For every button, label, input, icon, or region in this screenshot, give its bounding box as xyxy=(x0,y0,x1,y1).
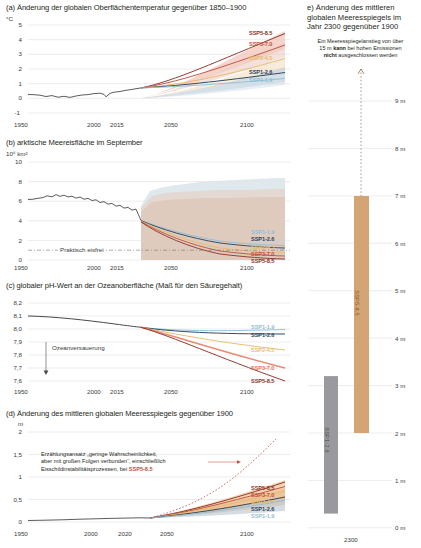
panel-a-ytick: 4 xyxy=(4,36,22,43)
panel-d-annotation-line3: Eisschildinstabilitätsprozessen, bei xyxy=(41,466,129,472)
panel-d-xtick: 1950 xyxy=(14,530,28,537)
panel-c-xtick: 2015 xyxy=(110,388,124,395)
panel-d-legend-ssp119: SSP1-1.9 xyxy=(251,513,274,519)
panel-a-legend-ssp245: SSP2-4.5 xyxy=(249,55,272,61)
panel-b-legend-ssp119: SSP1-1.9 xyxy=(251,229,274,235)
panel-d-legend-ssp245: SSP2-4.5 xyxy=(251,499,274,505)
panel-a-ytick: 1 xyxy=(4,80,22,87)
panel-e-ytick: 9 m xyxy=(395,97,405,104)
panel-e-plot xyxy=(300,0,421,548)
panel-d-legend-ssp585: SSP5-8.5 xyxy=(251,485,274,491)
panel-d-annotation-line1: Erzählungsansatz „geringe Wahrscheinlich… xyxy=(41,451,216,458)
panel-e: e) Änderung des mittleren globalen Meere… xyxy=(300,0,421,548)
panel-b-xtick: 2100 xyxy=(240,264,254,271)
panel-a-xtick: 2015 xyxy=(110,121,124,128)
panel-b-icefree-label: Praktisch eisfrei xyxy=(58,246,106,253)
panel-d-annotation-line3-wrap: Eisschildinstabilitätsprozessen, bei SSP… xyxy=(41,466,216,473)
panel-d-annotation: Erzählungsansatz „geringe Wahrscheinlich… xyxy=(41,451,216,473)
panel-a-legend-ssp585: SSP5-8.5 xyxy=(249,30,272,36)
panel-e-ytick: 2 m xyxy=(395,430,405,437)
panel-d-legend-ssp370: SSP3-7.0 xyxy=(251,492,274,498)
panel-a-xtick: 2050 xyxy=(164,121,178,128)
panel-a-xtick: 1950 xyxy=(14,121,28,128)
panel-a-legend-ssp126: SSP1-2.6 xyxy=(249,69,272,75)
panel-c-plot xyxy=(0,278,300,406)
panel-d-ytick: 1 xyxy=(2,473,22,480)
panel-c-ytick: 7,7 xyxy=(0,364,22,371)
panel-e-ytick: 8 m xyxy=(395,145,405,152)
panel-b-xtick: 1950 xyxy=(14,264,28,271)
panel-d-legend-ssp126: SSP1-2.6 xyxy=(251,506,274,512)
panel-b-legend-ssp245: SSP2-4.5 xyxy=(251,244,274,250)
panel-a: (a) Änderung der globalen Oberflächentem… xyxy=(0,0,300,134)
panel-b-legend-ssp126: SSP1-2.6 xyxy=(251,236,274,242)
panel-b-ytick: 4 xyxy=(2,217,22,224)
panel-c-ytick: 8,2 xyxy=(0,299,22,306)
panel-d-xtick: 2000 xyxy=(84,530,98,537)
panel-e-ytick: 1 m xyxy=(395,477,405,484)
panel-c-legend-ssp370: SSP3-7.0 xyxy=(251,365,274,371)
panel-c-xtick: 2050 xyxy=(164,388,178,395)
panel-e-bar-label-ssp126: SSP1-2.6 xyxy=(324,427,330,453)
panel-c-ytick: 8,1 xyxy=(0,312,22,319)
panel-d-ytick: 1,5 xyxy=(2,451,22,458)
panel-b-ytick: 8 xyxy=(2,178,22,185)
panel-c-legend-ssp245: SSP2-4.5 xyxy=(251,347,274,353)
panel-b-ytick: 6 xyxy=(2,197,22,204)
panel-c-ytick: 7,8 xyxy=(0,351,22,358)
panel-e-ytick: 4 m xyxy=(395,335,405,342)
panel-d-xtick: 2020 xyxy=(118,530,132,537)
panel-c: (c) globaler pH-Wert an der Ozeanoberflä… xyxy=(0,278,300,406)
panel-b-ytick: 10 xyxy=(2,158,22,165)
panel-a-plot xyxy=(0,0,300,134)
panel-e-ytick: 3 m xyxy=(395,382,405,389)
panel-c-ytick: 7,6 xyxy=(0,377,22,384)
panel-b-xtick: 2000 xyxy=(87,264,101,271)
panel-d-ytick: 2 xyxy=(2,428,22,435)
panel-e-ytick: 7 m xyxy=(395,192,405,199)
panel-c-annotation: Ozeanversauerung xyxy=(52,344,105,351)
panel-d-plot xyxy=(0,406,300,548)
panel-c-legend-ssp585: SSP5-8.5 xyxy=(251,378,274,384)
panel-a-xtick: 2100 xyxy=(240,121,254,128)
panel-c-xtick: 1950 xyxy=(14,388,28,395)
panel-d-annotation-line2: aber mit großen Folgen verbunden“, einsc… xyxy=(41,458,216,465)
panel-b-xtick: 2050 xyxy=(164,264,178,271)
panel-c-xtick: 2000 xyxy=(87,388,101,395)
panel-b-legend-ssp370: SSP3-7.0 xyxy=(251,251,274,257)
panel-c-legend-ssp126: SSP1-2.6 xyxy=(251,332,274,338)
panel-d: (d) Änderung des mittleren globalen Meer… xyxy=(0,406,300,548)
panel-a-legend-ssp119: SSP1-1.9 xyxy=(249,77,272,83)
panel-e-ytick: 6 m xyxy=(395,240,405,247)
panel-b-ytick: 0 xyxy=(2,256,22,263)
panel-a-legend-ssp370: SSP3-7.0 xyxy=(249,41,272,47)
panel-e-xtick: 2300 xyxy=(344,536,358,543)
panel-b-xtick: 2015 xyxy=(110,264,124,271)
panel-b: (b) arktische Meereisfläche im September… xyxy=(0,136,300,276)
panel-e-ytick: 5 m xyxy=(395,287,405,294)
panel-d-annotation-highlight: SSP5-8.5 xyxy=(129,466,153,472)
panel-d-xtick: 2100 xyxy=(240,530,254,537)
panel-e-ytick: 0 m xyxy=(395,524,405,531)
panel-d-ytick: 0 xyxy=(2,518,22,525)
panel-a-ytick: -1 xyxy=(2,109,20,116)
panel-b-legend-ssp585: SSP5-8.5 xyxy=(251,258,274,264)
panel-c-ytick: 7,9 xyxy=(0,338,22,345)
panel-b-ytick: 2 xyxy=(2,237,22,244)
panel-a-ytick: 0 xyxy=(4,94,22,101)
panel-d-ytick: 0,5 xyxy=(2,496,22,503)
panel-c-legend-ssp119: SSP1-1.9 xyxy=(251,324,274,330)
panel-c-ytick: 8,0 xyxy=(0,325,22,332)
panel-a-ytick: 3 xyxy=(4,50,22,57)
panel-a-ytick: 5 xyxy=(4,21,22,28)
panel-c-xtick: 2100 xyxy=(240,388,254,395)
panel-a-xtick: 2000 xyxy=(87,121,101,128)
panel-d-xtick: 2050 xyxy=(160,530,174,537)
climate-figure: (a) Änderung der globalen Oberflächentem… xyxy=(0,0,421,548)
panel-e-bar-label-ssp585: SSP5-8.5 xyxy=(354,290,360,316)
panel-a-ytick: 2 xyxy=(4,65,22,72)
